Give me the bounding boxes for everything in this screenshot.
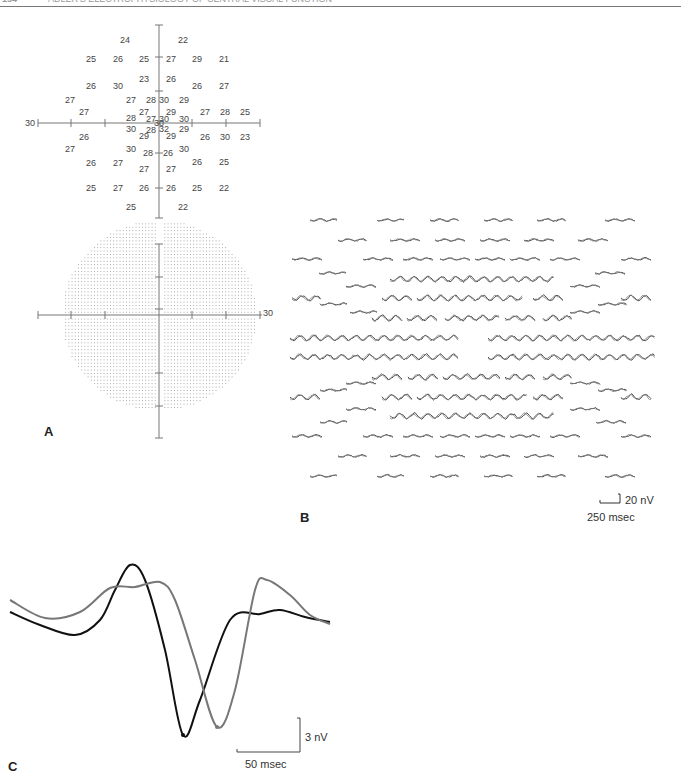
scale-c-voltage: 3 nV <box>305 731 328 743</box>
scale-bar-c <box>0 0 681 779</box>
panel-label-c: C <box>8 759 17 774</box>
scale-c-time: 50 msec <box>245 758 287 770</box>
